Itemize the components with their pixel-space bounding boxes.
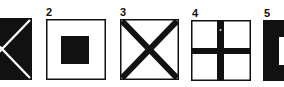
- panel-5-label: 5: [264, 8, 270, 19]
- panel-4-label: 4: [192, 8, 198, 19]
- panel-3-label: 3: [120, 7, 126, 18]
- white-saltire-icon: [0, 18, 32, 80]
- panel-4: [191, 20, 251, 81]
- panel-2-label: 2: [46, 7, 52, 18]
- panel-2: [46, 19, 106, 80]
- panel-5: [263, 20, 284, 81]
- cross-icon: [191, 20, 251, 81]
- panel-3: [120, 19, 179, 80]
- black-saltire-icon: [120, 19, 179, 80]
- center-square-icon: [46, 19, 106, 80]
- panel-1: [0, 18, 32, 80]
- white-center-square-icon: [263, 20, 284, 81]
